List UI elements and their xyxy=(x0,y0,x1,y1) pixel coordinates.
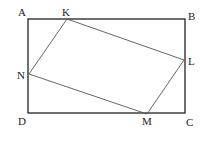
label-k: K xyxy=(62,6,70,18)
quadrilateral-klmn xyxy=(29,19,184,114)
label-a: A xyxy=(18,6,26,18)
label-l: L xyxy=(188,55,195,67)
label-b: B xyxy=(188,10,195,22)
label-d: D xyxy=(18,115,26,127)
label-n: N xyxy=(17,69,25,81)
label-m: M xyxy=(142,115,152,127)
label-c: C xyxy=(186,116,193,128)
geometry-diagram: A K B L N D M C xyxy=(0,0,209,142)
